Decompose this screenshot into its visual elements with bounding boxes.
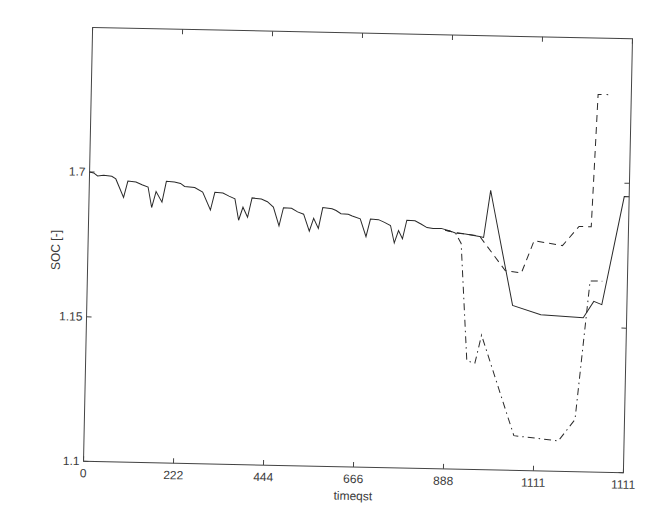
x-axis-label: timeqst [333, 489, 373, 504]
y-axis-label: SOC [-] [49, 230, 63, 270]
series-dashed [444, 91, 608, 274]
data-series [84, 84, 631, 442]
x-axis-ticks: 022244466688811111111 [80, 27, 645, 492]
x-tick-label: 888 [433, 474, 454, 488]
x-tick-label: 444 [253, 470, 274, 484]
x-tick-label: 0 [80, 466, 87, 480]
plot-frame [84, 27, 633, 472]
plot-area: 022244466688811111111 1.11.151.7 timeqst [55, 27, 644, 509]
series-dash-dot [441, 230, 603, 442]
y-tick-label: 1.15 [59, 309, 83, 323]
y-tick-label: 1.1 [63, 454, 80, 468]
x-tick-label: 1111 [521, 476, 546, 491]
x-tick-label: 222 [163, 468, 184, 482]
chart: 022244466688811111111 1.11.151.7 timeqst… [0, 0, 668, 527]
x-tick-label: 1111 [611, 477, 636, 492]
y-axis-ticks: 1.11.151.7 [56, 164, 630, 479]
y-tick-label: 1.7 [69, 164, 86, 178]
x-tick-label: 666 [343, 472, 364, 486]
series-solid [87, 172, 630, 319]
